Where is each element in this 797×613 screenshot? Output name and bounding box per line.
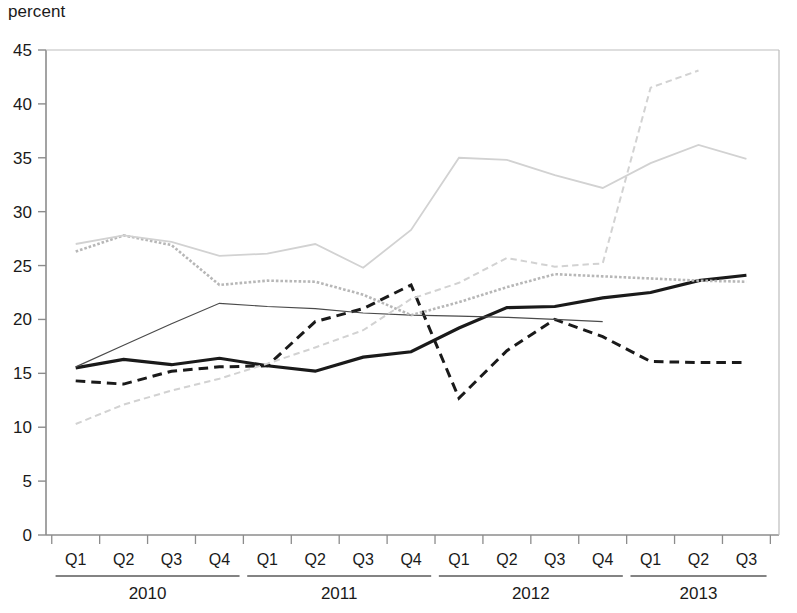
y-axis-tick-label: 35 [13,149,32,168]
series-black-dashed [76,285,747,398]
series-black-thin-solid [76,303,603,367]
series-gray-medium-dotted [76,235,747,315]
y-axis-tick-label: 5 [23,472,32,491]
y-axis-tick-label: 40 [13,95,32,114]
x-axis-quarter-label: Q2 [113,551,134,568]
series-black-thick-solid [76,275,747,371]
y-axis-tick-label: 25 [13,257,32,276]
x-axis-year-label: 2011 [321,584,358,603]
x-axis-quarter-label: Q2 [688,551,709,568]
x-axis-quarter-label: Q4 [209,551,230,568]
x-axis-year-label: 2012 [512,584,550,603]
x-axis-quarter-label: Q4 [400,551,421,568]
y-axis-tick-label: 20 [13,310,32,329]
x-axis-year-label: 2013 [680,584,718,603]
y-axis-tick-label: 15 [13,364,32,383]
x-axis-quarter-label: Q2 [496,551,517,568]
y-axis-tick-label: 30 [13,203,32,222]
x-axis-quarter-label: Q4 [592,551,613,568]
x-axis-quarter-label: Q3 [352,551,373,568]
chart-container: percent 051015202530354045 Q1Q2Q3Q4Q1Q2Q… [0,0,797,613]
x-axis-quarter-label: Q3 [544,551,565,568]
x-axis-tick-group [52,535,771,544]
y-axis-tick-label: 10 [13,418,32,437]
x-axis-quarter-label: Q1 [640,551,661,568]
y-axis-tick-label: 45 [13,41,32,60]
x-axis-quarter-label: Q1 [448,551,469,568]
y-axis-tick-label: 0 [23,526,32,545]
x-axis-quarter-label: Q2 [305,551,326,568]
x-axis-quarter-label: Q1 [257,551,278,568]
line-chart-svg: 051015202530354045 Q1Q2Q3Q4Q1Q2Q3Q4Q1Q2Q… [0,0,797,613]
axis-lines-group [46,50,779,535]
x-axis-year-label: 2010 [129,584,167,603]
x-axis-year-group: 2010201120122013 [56,576,767,603]
x-axis-quarter-label: Q3 [736,551,757,568]
data-series-group [76,70,747,424]
x-axis-quarter-label: Q1 [65,551,86,568]
x-axis-quarter-label-group: Q1Q2Q3Q4Q1Q2Q3Q4Q1Q2Q3Q4Q1Q2Q3 [65,551,757,568]
y-axis-tick-group: 051015202530354045 [13,41,46,545]
x-axis-quarter-label: Q3 [161,551,182,568]
